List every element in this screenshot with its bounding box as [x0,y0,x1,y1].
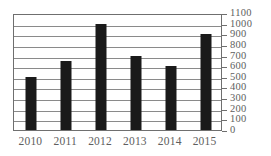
x-axis-tick-label: 2014 [152,134,187,148]
bar-slot [188,15,223,130]
y-axis-tick-mark [222,67,227,68]
y-axis-tick-label: 300 [230,92,247,103]
bar-chart: 110010009008007006005004003002001000 201… [0,0,271,156]
y-axis-tick-mark [222,25,227,26]
y-axis-tick-mark [222,88,227,89]
x-axis-tick-label: 2010 [13,134,48,148]
x-axis-tick-label: 2015 [187,134,222,148]
y-axis: 110010009008007006005004003002001000 [222,14,271,131]
y-axis-tick-label: 900 [230,28,247,39]
bar-slot [119,15,154,130]
x-axis-tick-label: 2013 [118,134,153,148]
y-axis-tick-mark [222,131,227,132]
y-axis-tick-label: 400 [230,81,247,92]
y-axis-tick-mark [222,57,227,58]
y-axis-tick-mark [222,99,227,100]
x-axis-tick-label: 2012 [83,134,118,148]
y-axis-tick-label: 0 [230,124,236,135]
x-axis-tick-label: 2011 [48,134,83,148]
bar-slot [14,15,49,130]
bar[interactable] [165,66,176,130]
y-axis-tick-label: 100 [230,113,247,124]
y-axis-tick-mark [222,46,227,47]
y-axis-tick-mark [222,110,227,111]
bar[interactable] [96,24,107,130]
bar[interactable] [130,56,141,130]
bar[interactable] [26,77,37,130]
bar-slot [49,15,84,130]
y-axis-tick-label: 600 [230,60,247,71]
x-axis: 201020112012201320142015 [13,134,222,154]
plot-area [13,14,222,131]
y-axis-tick-label: 800 [230,39,247,50]
y-axis-tick-label: 1100 [230,7,252,18]
bar[interactable] [61,61,72,130]
bar[interactable] [200,34,211,130]
bar-slot [153,15,188,130]
bars-layer [14,15,221,130]
bar-slot [84,15,119,130]
y-axis-tick-mark [222,78,227,79]
y-axis-tick-mark [222,35,227,36]
y-axis-tick-mark [222,14,227,15]
y-axis-tick-mark [222,120,227,121]
